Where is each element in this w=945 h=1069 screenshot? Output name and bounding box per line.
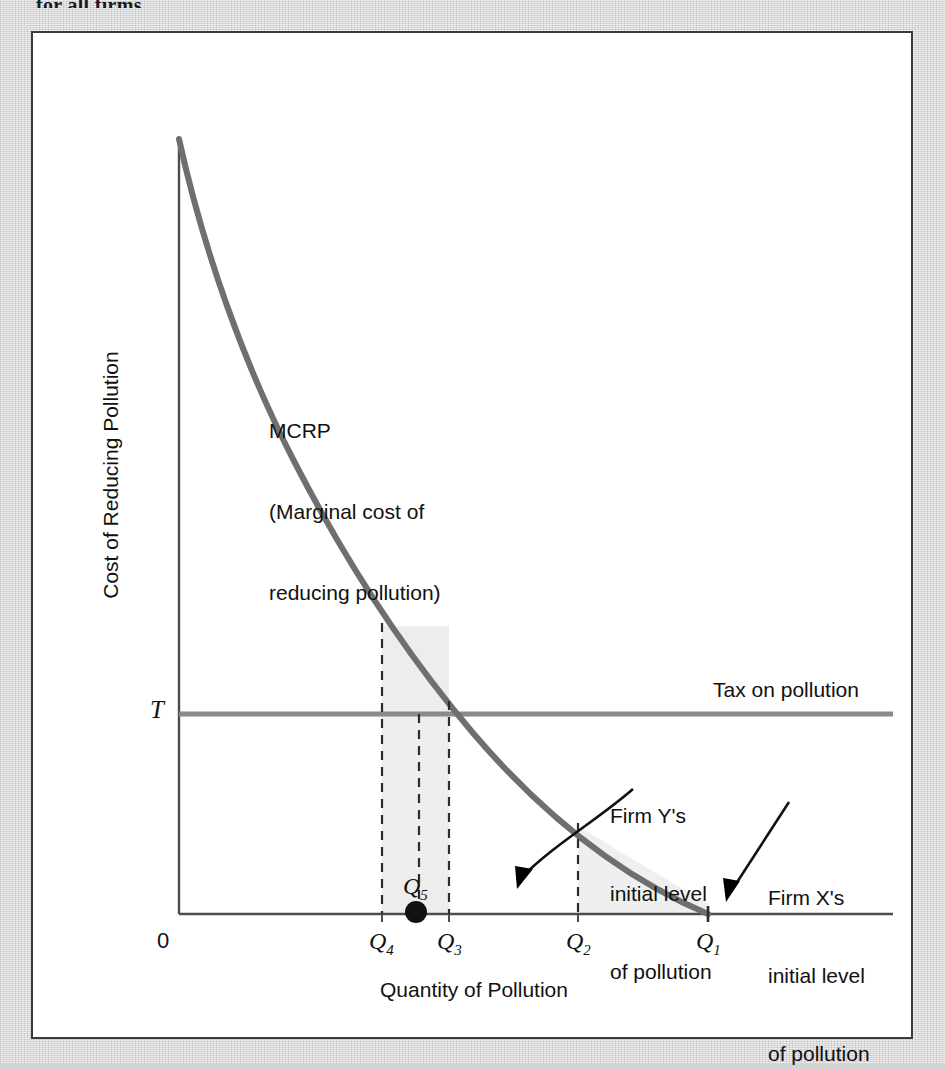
q5-label: Q5: [403, 873, 428, 904]
q5-label-sub: 5: [420, 887, 428, 903]
firm-x-line1: Firm X's: [768, 885, 870, 911]
y-axis-label: Cost of Reducing Pollution: [99, 335, 123, 615]
firm-y-annotation: Firm Y's initial level of pollution: [610, 751, 712, 1037]
firm-x-annotation: Firm X's initial level of pollution: [768, 833, 870, 1069]
q5-point-marker: [405, 901, 427, 923]
firm-y-line2: initial level: [610, 881, 712, 907]
tax-line-label: Tax on pollution: [713, 678, 859, 702]
q5-label-base: Q: [403, 873, 420, 899]
origin-label: 0: [157, 928, 169, 954]
mcrp-label: MCRP (Marginal cost of reducing pollutio…: [269, 363, 441, 660]
mcrp-label-line2: (Marginal cost of: [269, 498, 441, 525]
q3-sub: 3: [454, 942, 462, 958]
q3-base: Q: [437, 928, 454, 954]
q1-sub: 1: [713, 942, 721, 958]
figure-panel: Cost of Reducing Pollution Quantity of P…: [31, 31, 913, 1039]
firm-x-line2: initial level: [768, 963, 870, 989]
mcrp-label-line3: reducing pollution): [269, 579, 441, 606]
x-tick-label-q1: Q1: [696, 928, 721, 959]
shaded-region-q4-q3: [382, 626, 449, 914]
firm-x-line3: of pollution: [768, 1041, 870, 1067]
firm-y-line3: of pollution: [610, 959, 712, 985]
mcrp-label-line1: MCRP: [269, 417, 441, 444]
q4-base: Q: [369, 928, 386, 954]
firm-y-line1: Firm Y's: [610, 803, 712, 829]
firm-y-arrowhead: [515, 866, 533, 889]
q1-base: Q: [696, 928, 713, 954]
q4-sub: 4: [386, 942, 394, 958]
tax-level-label: T: [150, 696, 164, 724]
x-tick-label-q4: Q4: [369, 928, 394, 959]
q2-base: Q: [566, 928, 583, 954]
figure-caption: for all firms.: [36, 0, 436, 8]
figure-canvas: Cost of Reducing Pollution Quantity of P…: [33, 33, 915, 1041]
x-tick-label-q2: Q2: [566, 928, 591, 959]
firm-x-arrowhead: [723, 878, 740, 902]
x-tick-label-q3: Q3: [437, 928, 462, 959]
q2-sub: 2: [583, 942, 591, 958]
